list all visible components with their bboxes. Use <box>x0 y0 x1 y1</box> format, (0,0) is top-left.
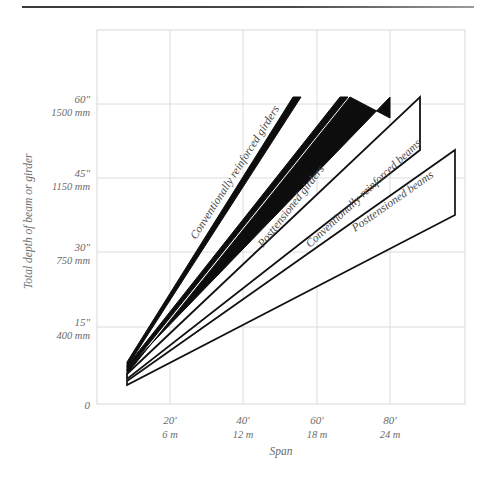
chart-page: SITECAST CONCRETE BEAMS AND GIRDERS <box>0 0 482 478</box>
x-axis-ticklabels: 20' 6 m 40' 12 m 60' 18 m 80' 24 m <box>162 414 401 440</box>
xtick-20-feet: 20' <box>163 414 177 426</box>
ytick-30-inches: 30" <box>73 241 90 253</box>
ytick-45-inches: 45" <box>74 167 90 179</box>
ytick-60-inches: 60" <box>74 93 90 105</box>
xtick-80-metric: 24 m <box>380 429 401 440</box>
xtick-40-metric: 12 m <box>233 429 254 440</box>
ytick-15-inches: 15" <box>74 316 90 328</box>
xtick-80-feet: 80' <box>383 414 397 426</box>
xtick-40-feet: 40' <box>236 414 250 426</box>
ytick-30-metric: 750 mm <box>56 255 90 266</box>
ytick-15-metric: 400 mm <box>56 330 90 341</box>
y-axis-title: Total depth of beam or girder <box>22 153 35 289</box>
ytick-60-metric: 1500 mm <box>51 107 90 118</box>
ytick-45-metric: 1150 mm <box>52 181 90 192</box>
ytick-0: 0 <box>85 399 91 411</box>
chart-canvas: Conventionally reinforced girders Postte… <box>0 0 482 478</box>
xtick-20-metric: 6 m <box>162 429 178 440</box>
x-axis-title: Span <box>270 445 293 458</box>
xtick-60-metric: 18 m <box>307 429 328 440</box>
y-axis-ticklabels: 60" 1500 mm 45" 1150 mm 30" 750 mm 15" 4… <box>51 93 90 411</box>
xtick-60-feet: 60' <box>310 414 324 426</box>
